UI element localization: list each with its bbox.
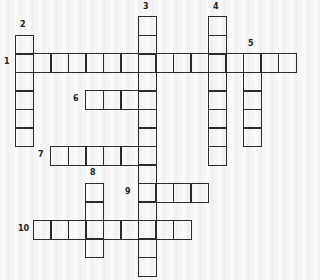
crossword-cell[interactable]	[243, 90, 262, 110]
crossword-cell[interactable]	[190, 53, 209, 73]
crossword-cell[interactable]	[260, 53, 279, 73]
crossword-cell[interactable]	[138, 146, 157, 166]
crossword-cell[interactable]	[85, 53, 104, 73]
crossword-cell[interactable]	[243, 53, 262, 73]
crossword-cell[interactable]	[208, 127, 227, 147]
crossword-cell[interactable]	[243, 109, 262, 129]
crossword-cell[interactable]	[85, 201, 104, 221]
clue-number-9: 9	[125, 188, 131, 196]
crossword-cell[interactable]	[225, 53, 244, 73]
crossword-cell[interactable]	[103, 53, 122, 73]
crossword-cell[interactable]	[138, 164, 157, 184]
crossword-cell[interactable]	[208, 72, 227, 92]
crossword-cell[interactable]	[120, 90, 139, 110]
crossword-cell[interactable]	[243, 72, 262, 92]
crossword-cell[interactable]	[138, 35, 157, 55]
crossword-cell[interactable]	[208, 109, 227, 129]
crossword-cell[interactable]	[190, 183, 209, 203]
clue-number-7: 7	[38, 151, 44, 159]
crossword-cell[interactable]	[138, 90, 157, 110]
crossword-cell[interactable]	[68, 220, 87, 240]
crossword-cell[interactable]	[208, 53, 227, 73]
crossword-cell[interactable]	[103, 146, 122, 166]
crossword-cell[interactable]	[15, 35, 34, 55]
crossword-cell[interactable]	[243, 127, 262, 147]
crossword-cell[interactable]	[50, 53, 69, 73]
clue-number-6: 6	[73, 95, 79, 103]
crossword-cell[interactable]	[68, 146, 87, 166]
crossword-cell[interactable]	[138, 109, 157, 129]
clue-number-5: 5	[248, 40, 254, 48]
clue-number-1: 1	[4, 58, 10, 66]
crossword-cell[interactable]	[138, 238, 157, 258]
crossword-cell[interactable]	[155, 53, 174, 73]
crossword-cell[interactable]	[103, 220, 122, 240]
crossword-cell[interactable]	[173, 183, 192, 203]
crossword-cell[interactable]	[138, 183, 157, 203]
crossword-cell[interactable]	[208, 146, 227, 166]
crossword-cell[interactable]	[120, 53, 139, 73]
crossword-cell[interactable]	[15, 53, 34, 73]
crossword-cell[interactable]	[85, 146, 104, 166]
crossword-cell[interactable]	[15, 90, 34, 110]
crossword-cell[interactable]	[33, 220, 52, 240]
crossword-cell[interactable]	[120, 146, 139, 166]
crossword-cell[interactable]	[173, 220, 192, 240]
crossword-cell[interactable]	[155, 183, 174, 203]
crossword-cell[interactable]	[120, 220, 139, 240]
crossword-cell[interactable]	[85, 183, 104, 203]
crossword-cell[interactable]	[278, 53, 297, 73]
crossword-cell[interactable]	[33, 53, 52, 73]
crossword-cell[interactable]	[138, 16, 157, 36]
crossword-cell[interactable]	[138, 53, 157, 73]
crossword-cell[interactable]	[208, 16, 227, 36]
crossword-cell[interactable]	[85, 220, 104, 240]
clue-number-2: 2	[20, 21, 26, 29]
crossword-cell[interactable]	[138, 72, 157, 92]
crossword-cell[interactable]	[15, 127, 34, 147]
crossword-cell[interactable]	[15, 72, 34, 92]
crossword-cell[interactable]	[208, 90, 227, 110]
clue-number-4: 4	[213, 3, 219, 11]
crossword-cell[interactable]	[103, 90, 122, 110]
crossword-cell[interactable]	[208, 35, 227, 55]
clue-number-8: 8	[90, 169, 96, 177]
clue-number-10: 10	[18, 225, 29, 233]
crossword-cell[interactable]	[50, 146, 69, 166]
crossword-cell[interactable]	[173, 53, 192, 73]
crossword-cell[interactable]	[138, 257, 157, 277]
crossword-cell[interactable]	[15, 109, 34, 129]
clue-number-3: 3	[143, 3, 149, 11]
crossword-cell[interactable]	[138, 127, 157, 147]
crossword-cell[interactable]	[85, 90, 104, 110]
crossword-cell[interactable]	[50, 220, 69, 240]
crossword-cell[interactable]	[138, 201, 157, 221]
crossword-cell[interactable]	[155, 220, 174, 240]
crossword-cell[interactable]	[85, 238, 104, 258]
crossword-cell[interactable]	[138, 220, 157, 240]
crossword-cell[interactable]	[68, 53, 87, 73]
